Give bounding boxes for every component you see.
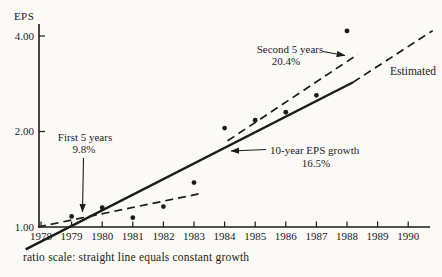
annotation-tenyear-rate: 16.5% (302, 157, 330, 169)
x-tick-label: 1988 (336, 230, 359, 242)
second5-arrow (323, 52, 345, 56)
first5-arrow (83, 158, 84, 212)
x-tick-label: 1990 (397, 230, 420, 242)
eps-growth-figure: 4.002.001.001978197919801981198219831984… (0, 0, 442, 277)
annotation-second5-rate: 20.4% (272, 55, 300, 67)
x-tick-label: 1980 (91, 230, 114, 242)
x-tick-label: 1979 (61, 230, 84, 242)
data-point-1981 (130, 215, 135, 220)
annotations: EPS First 5 years 9.8% Second 5 years 20… (14, 10, 436, 212)
data-point-1983 (192, 180, 197, 185)
x-tick-label: 1984 (214, 230, 237, 242)
y-tick-label: 2.00 (15, 125, 35, 137)
x-tick-label: 1986 (275, 230, 298, 242)
annotation-estimated-label: Estimated (390, 65, 436, 77)
x-tick-label: 1981 (122, 230, 144, 242)
y-tick-label: 4.00 (15, 30, 35, 42)
data-points (69, 29, 349, 221)
data-point-1982 (161, 204, 166, 209)
annotation-first5-rate: 9.8% (73, 143, 96, 155)
tenyear-arrow (231, 150, 266, 152)
axis-spine (39, 24, 430, 227)
x-tick-label: 1982 (152, 230, 174, 242)
annotation-second5-label: Second 5 years (257, 43, 324, 55)
data-point-1984 (222, 126, 227, 131)
x-tick-label: 1989 (367, 230, 390, 242)
data-point-1986 (283, 110, 288, 115)
trend-line-second-5-years (228, 54, 358, 140)
data-point-1980 (100, 205, 105, 210)
trend-line-first-5-years (38, 193, 203, 227)
ratio-scale-note: ratio scale: straight line equals consta… (23, 251, 249, 264)
y-axis-title: EPS (14, 10, 34, 22)
annotation-tenyear-label: 10-year EPS growth (270, 144, 360, 156)
annotation-first5-label: First 5 years (58, 131, 112, 143)
x-tick-label: 1983 (183, 230, 206, 242)
data-point-1979 (69, 214, 74, 219)
x-tick-label: 1987 (305, 230, 328, 242)
data-point-1987 (314, 93, 319, 98)
data-point-1988 (345, 29, 350, 34)
x-tick-label: 1985 (244, 230, 267, 242)
data-point-1985 (253, 118, 258, 123)
eps-growth-chart: 4.002.001.001978197919801981198219831984… (0, 0, 442, 277)
